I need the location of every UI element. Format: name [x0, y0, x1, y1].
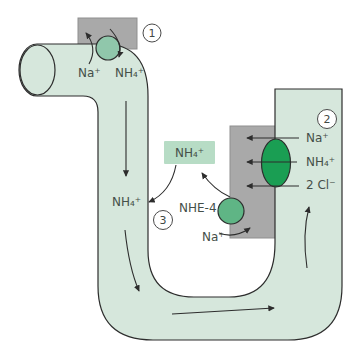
nephron-ammonium-transport-diagram: 1 2 3 Na⁺ NH₄⁺ Na⁺ NH₄⁺ 2 Cl⁻ NH₄⁺ NH₄⁺ … — [0, 0, 364, 361]
step3-badge-number: 3 — [160, 214, 167, 227]
diagram-canvas: 1 2 3 Na⁺ NH₄⁺ Na⁺ NH₄⁺ 2 Cl⁻ NH₄⁺ NH₄⁺ … — [0, 0, 364, 361]
step2-na-label: Na⁺ — [306, 131, 329, 145]
step1-badge: 1 — [143, 24, 161, 42]
nhe4-nh4-out-arrow — [202, 173, 230, 197]
step1-nh4-label: NH₄⁺ — [115, 66, 144, 80]
lumen-nh4-label: NH₄⁺ — [112, 195, 141, 209]
nh4-recycling-arrow — [149, 165, 176, 202]
nhe4-transporter — [218, 198, 244, 224]
step3-badge: 3 — [154, 211, 173, 230]
tubule-end-cap — [20, 45, 55, 95]
step2-badge: 2 — [318, 110, 337, 129]
tubule-loop — [19, 44, 342, 340]
step2-nh4-label: NH₄⁺ — [306, 155, 335, 169]
step2-cl-label: 2 Cl⁻ — [306, 178, 336, 192]
step1-transporter — [96, 36, 120, 60]
nhe4-na-label: Na⁺ — [202, 230, 225, 244]
nhe4-transporter-label: NHE-4 — [179, 201, 217, 215]
step1-badge-number: 1 — [149, 27, 156, 40]
step2-badge-number: 2 — [324, 113, 331, 126]
nh4-highlight-label: NH₄⁺ — [175, 146, 204, 160]
step2-transporter — [262, 139, 291, 187]
step1-na-label: Na⁺ — [78, 66, 101, 80]
